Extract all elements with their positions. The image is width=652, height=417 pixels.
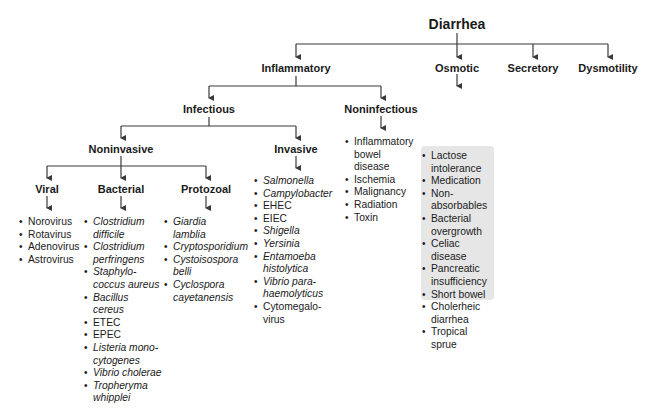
list-item: Clostridiumperfringens	[84, 241, 162, 266]
list-item: Cryptosporidium	[164, 241, 248, 254]
list-item: Toxin	[345, 212, 414, 225]
list-item: Vibrio cholerae	[84, 367, 162, 380]
list-item: Tropicalsprue	[422, 326, 487, 351]
list-item: Ischemia	[345, 174, 414, 187]
invasive-list: SalmonellaCampylobacterEHECEIECShigellaY…	[254, 175, 332, 326]
node-dysmotility: Dysmotility	[578, 62, 637, 74]
noninfectious-list: InflammatoryboweldiseaseIschemiaMalignan…	[345, 136, 414, 224]
list-item: Tropherymawhipplei	[84, 380, 162, 405]
list-item: EPEC	[84, 329, 162, 342]
list-item: Radiation	[345, 199, 414, 212]
list-item: Bacterialovergrowth	[422, 213, 487, 238]
list-item: Cholerheicdiarrhea	[422, 301, 487, 326]
osmotic-list: LactoseintoleranceMedicationNon-absorbab…	[422, 150, 487, 352]
list-item: Campylobacter	[254, 188, 332, 201]
node-secretory: Secretory	[508, 62, 559, 74]
list-item: Shigella	[254, 225, 332, 238]
node-noninvasive: Noninvasive	[89, 143, 154, 155]
list-item: Malignancy	[345, 186, 414, 199]
list-item: Vibrio para-haemolyticus	[254, 276, 332, 301]
list-item: Listeria mono-cytogenes	[84, 342, 162, 367]
list-item: Cyclosporacayetanensis	[164, 279, 248, 304]
list-item: Salmonella	[254, 175, 332, 188]
node-viral: Viral	[35, 183, 59, 195]
list-item: Medication	[422, 175, 487, 188]
list-item: Rotavirus	[19, 229, 80, 242]
list-item: Short bowel	[422, 289, 487, 302]
node-bacterial: Bacterial	[98, 183, 144, 195]
list-item: Giardialamblia	[164, 216, 248, 241]
node-invasive: Invasive	[274, 143, 317, 155]
list-item: ETEC	[84, 317, 162, 330]
viral-list: NorovirusRotavirusAdenovirusAstrovirus	[19, 216, 80, 266]
list-item: EIEC	[254, 213, 332, 226]
node-noninfectious: Noninfectious	[344, 103, 417, 115]
list-item: Celiacdisease	[422, 238, 487, 263]
node-diarrhea: Diarrhea	[429, 16, 486, 32]
protozoal-list: GiardialambliaCryptosporidiumCystoisospo…	[164, 216, 248, 304]
node-protozoal: Protozoal	[181, 183, 231, 195]
list-item: Inflammatoryboweldisease	[345, 136, 414, 174]
node-inflammatory: Inflammatory	[261, 62, 330, 74]
list-item: EHEC	[254, 200, 332, 213]
list-item: Staphylo-coccus aureus	[84, 266, 162, 291]
list-item: Lactoseintolerance	[422, 150, 487, 175]
list-item: Astrovirus	[19, 254, 80, 267]
node-infectious: Infectious	[183, 103, 235, 115]
list-item: Bacilluscereus	[84, 292, 162, 317]
list-item: Non-absorbables	[422, 188, 487, 213]
list-item: Entamoebahistolytica	[254, 251, 332, 276]
node-osmotic: Osmotic	[435, 62, 479, 74]
list-item: Pancreaticinsufficiency	[422, 263, 487, 288]
bacterial-list: ClostridiumdifficileClostridiumperfringe…	[84, 216, 162, 405]
list-item: Norovirus	[19, 216, 80, 229]
list-item: Adenovirus	[19, 241, 80, 254]
list-item: Cystoisosporabelli	[164, 254, 248, 279]
list-item: Clostridiumdifficile	[84, 216, 162, 241]
list-item: Yersinia	[254, 238, 332, 251]
list-item: Cytomegalo-virus	[254, 301, 332, 326]
